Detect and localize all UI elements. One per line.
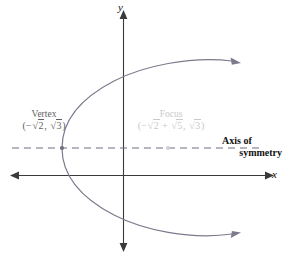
vertex-caption: Vertex [6,110,82,120]
vertex-radical-two: √3 [49,121,62,132]
vertex-annotation: Vertex (−√2, √3) [6,110,82,131]
focus-radical-three: √3 [188,121,201,132]
vertex-coordinates: (−√2, √3) [6,121,82,132]
vertex-radicand-two: 3 [56,119,63,131]
vertex-coords-prefix: (− [22,120,31,131]
axis-of-symmetry-caption-line1: Axis of [222,135,282,147]
focus-point [166,146,170,150]
vertex-point [60,146,64,150]
vertex-radicand-one: 2 [38,119,45,131]
parabola-lower-arm [62,148,232,236]
parabola-upper-arm [62,60,232,148]
axis-of-symmetry-caption: Axis of symmetry [222,135,282,158]
focus-radicand-one: 2 [153,119,160,131]
x-axis-label: x [272,169,277,181]
axis-of-symmetry-caption-line2: symmetry [222,147,282,159]
vertex-coords-suffix: ) [62,120,65,131]
x-axis [10,172,274,180]
focus-coords-prefix: (− [138,120,147,131]
focus-coordinates: (−√2 + √5, √3) [124,121,218,132]
vertex-radical-one: √2 [31,121,44,132]
y-axis-label: y [118,2,123,14]
parabola-upper-arrowhead [231,58,241,65]
parabola-figure [0,0,283,263]
focus-radical-two: √5 [170,121,183,132]
focus-coords-middle: + [160,120,171,131]
focus-coords-suffix: ) [201,120,204,131]
focus-radical-one: √2 [147,121,160,132]
focus-radicand-three: 3 [194,119,201,131]
focus-caption: Focus [124,110,218,120]
focus-radicand-two: 5 [176,119,183,131]
x-axis-left-arrowhead [10,172,19,180]
y-axis-bottom-arrowhead [120,243,128,252]
parabola-lower-arrowhead [231,231,241,238]
focus-annotation: Focus (−√2 + √5, √3) [124,110,218,131]
